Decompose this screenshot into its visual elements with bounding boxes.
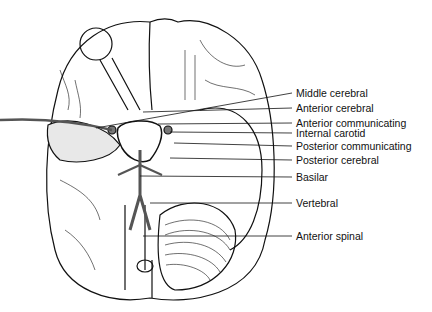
label-internal-carotid: Internal carotid xyxy=(296,128,365,139)
label-middle-cerebral: Middle cerebral xyxy=(296,88,368,99)
label-vertebral: Vertebral xyxy=(296,198,338,209)
label-posterior-cerebral: Posterior cerebral xyxy=(296,155,379,166)
brain-artery-diagram: Middle cerebral Anterior cerebral Anteri… xyxy=(0,0,432,312)
label-basilar: Basilar xyxy=(296,172,328,183)
label-anterior-cerebral: Anterior cerebral xyxy=(296,103,374,114)
label-posterior-communicating: Posterior communicating xyxy=(296,141,412,152)
label-anterior-spinal: Anterior spinal xyxy=(296,231,363,242)
